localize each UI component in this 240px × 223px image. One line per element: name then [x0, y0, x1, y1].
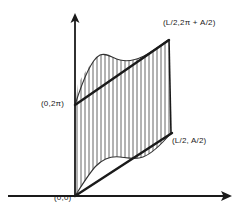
label-y-intercept: (0,2π) — [41, 99, 64, 108]
label-top-right-vertex: (L/2,2π + A/2) — [163, 18, 216, 27]
diagram-svg — [0, 0, 240, 223]
figure-canvas: (L/2,2π + A/2) (L/2, A/2) (0,2π) (0,0) — [0, 0, 240, 223]
label-origin: (0,0) — [54, 193, 71, 202]
label-right-lower-vertex: (L/2, A/2) — [172, 136, 206, 145]
